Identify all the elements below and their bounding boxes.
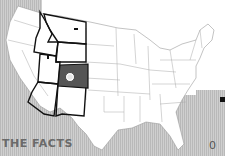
lake-icon xyxy=(74,28,78,30)
bullet-square-icon xyxy=(220,97,225,102)
section-heading: THE FACTS xyxy=(2,137,73,150)
us-landmass xyxy=(6,6,214,150)
text-fragment: 0 xyxy=(209,139,216,152)
us-map xyxy=(0,0,225,156)
lake-icon xyxy=(47,55,49,59)
